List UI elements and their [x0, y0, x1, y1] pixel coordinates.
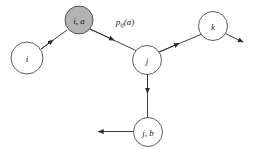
- edge-label-transition-probability: pij(a): [115, 17, 134, 28]
- edge-j-to-k: [159, 34, 202, 52]
- edge-k-outgoing-arrow: [224, 33, 243, 42]
- node-i-a[interactable]: i, a: [65, 6, 93, 34]
- edge-i-to-ia-arrow: [41, 40, 53, 49]
- node-i-a-label: i, a: [73, 16, 85, 26]
- node-i[interactable]: i: [11, 42, 43, 74]
- node-j-b-label: j, b: [141, 128, 154, 138]
- transition-probability-label: pij(a): [115, 17, 134, 28]
- edge-j-to-k-arrow: [159, 44, 179, 52]
- node-j[interactable]: j: [133, 46, 162, 75]
- graph-diagram-svg: i i, a j k j, b pij(a): [0, 0, 257, 149]
- prob-argument: (a): [124, 17, 135, 27]
- node-j-b[interactable]: j, b: [134, 118, 163, 147]
- node-k[interactable]: k: [199, 12, 228, 41]
- edge-ia-to-j-arrow: [90, 29, 114, 40]
- diagram-canvas: i i, a j k j, b pij(a): [0, 0, 257, 149]
- edge-ia-to-j: [90, 29, 137, 51]
- edge-i-to-ia: [41, 30, 67, 49]
- node-j-label: j: [145, 56, 149, 66]
- edge-k-outgoing: [224, 33, 243, 42]
